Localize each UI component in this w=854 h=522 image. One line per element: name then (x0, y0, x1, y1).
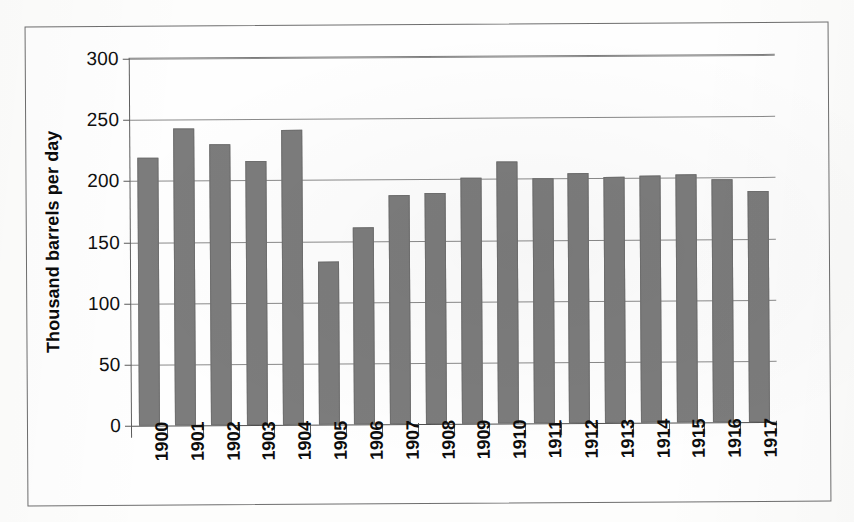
y-tick-label-150: 150 (87, 231, 119, 253)
x-tick-label-1915: 1915 (669, 436, 703, 459)
x-tick-label-1902: 1902 (204, 439, 238, 462)
plot-area: 050100150200250300 (129, 54, 777, 426)
x-tick-label-1916: 1916 (705, 436, 739, 459)
y-tick-label-100: 100 (88, 293, 120, 315)
y-axis-title: Thousand barrels per day (39, 58, 67, 425)
x-tick-label-1903: 1903 (239, 439, 273, 462)
bar-1904 (281, 130, 304, 425)
bar-1909 (460, 178, 483, 424)
x-tick-label-1913: 1913 (598, 437, 632, 460)
bar-1917 (747, 191, 769, 422)
y-tick-300 (123, 59, 130, 60)
bar-1914 (640, 175, 663, 422)
y-tick-100 (124, 303, 131, 304)
x-axis-tick-labels: 1900190119021903190419051906190719081909… (131, 436, 776, 502)
y-tick-250 (123, 120, 130, 121)
x-tick-label-1908: 1908 (419, 438, 453, 461)
y-axis-title-label: Thousand barrels per day (42, 130, 64, 353)
bar-1911 (532, 179, 554, 424)
scanned-page: Thousand barrels per day 050100150200250… (0, 0, 854, 522)
bar-1906 (353, 227, 375, 424)
y-tick-label-250: 250 (87, 109, 119, 131)
bar-1916 (711, 179, 733, 423)
y-tick-150 (124, 242, 131, 243)
x-tick-0 (131, 425, 132, 438)
x-tick-label-1912: 1912 (562, 437, 596, 460)
x-tick-label-1901: 1901 (168, 439, 202, 462)
x-tick-label-1917: 1917 (741, 436, 775, 459)
bar-1910 (496, 162, 519, 424)
y-tick-50 (125, 365, 132, 366)
y-tick-label-300: 300 (86, 48, 118, 70)
x-tick-label-1910: 1910 (490, 437, 524, 460)
x-tick-label-1904: 1904 (275, 439, 309, 462)
y-tick-label-50: 50 (99, 354, 121, 376)
bar-1903 (245, 161, 268, 425)
x-tick-label-1906: 1906 (347, 438, 381, 461)
x-tick-label-1909: 1909 (454, 438, 488, 461)
x-tick-label-1905: 1905 (311, 439, 345, 462)
y-tick-label-200: 200 (87, 170, 119, 192)
bar-series (130, 55, 777, 426)
y-tick-label-0: 0 (110, 415, 121, 437)
x-tick-label-1911: 1911 (526, 437, 560, 460)
bar-1907 (389, 195, 411, 424)
x-tick-label-text: 1917 (761, 418, 782, 457)
bar-1908 (425, 193, 447, 424)
x-tick-label-1907: 1907 (383, 438, 417, 461)
bar-1913 (604, 177, 627, 423)
bar-1915 (675, 174, 698, 422)
bar-chart: Thousand barrels per day 050100150200250… (25, 22, 830, 505)
bar-1912 (568, 173, 591, 423)
bar-1901 (173, 128, 196, 425)
bar-1900 (138, 158, 161, 426)
x-tick-label-1914: 1914 (634, 437, 668, 460)
y-tick-200 (123, 181, 130, 182)
bar-1902 (209, 144, 232, 425)
bar-1905 (318, 262, 340, 425)
x-tick-label-1900: 1900 (132, 440, 166, 463)
